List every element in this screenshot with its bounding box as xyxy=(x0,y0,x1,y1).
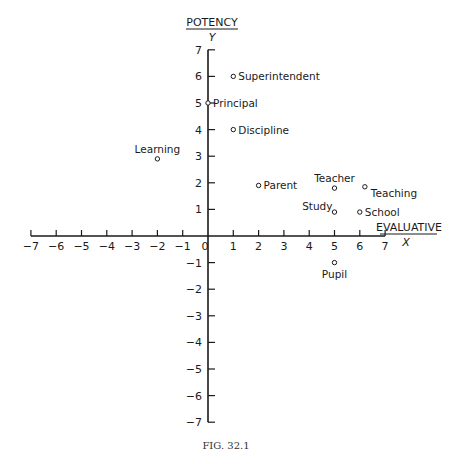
data-point-principal: Principal xyxy=(206,97,258,109)
point-label: Learning xyxy=(135,143,181,155)
y-tick-label: −5 xyxy=(186,363,202,376)
y-axis-variable: Y xyxy=(209,31,217,44)
x-tick-label: 6 xyxy=(356,240,363,253)
y-tick-label: 2 xyxy=(195,177,202,190)
point-marker-icon xyxy=(256,183,260,187)
point-label: School xyxy=(365,206,400,218)
point-marker-icon xyxy=(358,210,362,214)
data-point-study: Study xyxy=(302,200,337,214)
y-axis-title: POTENCY xyxy=(186,16,238,29)
point-marker-icon xyxy=(155,157,159,161)
data-point-pupil: Pupil xyxy=(322,260,347,279)
x-tick-label: −5 xyxy=(73,240,89,253)
x-tick-label: 1 xyxy=(230,240,237,253)
y-tick-label: 7 xyxy=(195,44,202,57)
data-point-superintendent: Superintendent xyxy=(231,70,320,82)
x-tick-label: −3 xyxy=(124,240,140,253)
x-tick-label: −6 xyxy=(48,240,64,253)
semantic-differential-chart: −7−6−5−4−3−2−101234567−7−6−5−4−3−2−11234… xyxy=(0,0,455,464)
point-marker-icon xyxy=(332,210,336,214)
data-point-teacher: Teacher xyxy=(313,172,355,190)
x-tick-label: 4 xyxy=(306,240,313,253)
y-tick-label: −7 xyxy=(186,416,202,429)
x-axis-title: EVALUATIVE xyxy=(376,221,442,234)
point-label: Study xyxy=(302,200,332,212)
y-tick-label: −3 xyxy=(186,310,202,323)
point-marker-icon xyxy=(231,74,235,78)
point-label: Parent xyxy=(264,179,298,191)
point-marker-icon xyxy=(206,101,210,105)
point-marker-icon xyxy=(363,185,367,189)
data-point-learning: Learning xyxy=(135,143,181,161)
y-tick-label: 4 xyxy=(195,124,202,137)
point-label: Teaching xyxy=(370,187,417,199)
x-tick-label: 2 xyxy=(255,240,262,253)
y-tick-label: 1 xyxy=(195,203,202,216)
point-marker-icon xyxy=(332,186,336,190)
point-label: Superintendent xyxy=(238,70,319,82)
point-label: Teacher xyxy=(313,172,355,184)
point-label: Pupil xyxy=(322,268,347,280)
data-point-teaching: Teaching xyxy=(363,185,417,199)
point-marker-icon xyxy=(332,260,336,264)
y-tick-label: −6 xyxy=(186,390,202,403)
data-point-discipline: Discipline xyxy=(231,124,289,136)
y-tick-label: 3 xyxy=(195,150,202,163)
point-label: Principal xyxy=(213,97,258,109)
y-tick-label: −1 xyxy=(186,257,202,270)
x-tick-label: −4 xyxy=(99,240,115,253)
x-tick-label: 7 xyxy=(382,240,389,253)
data-point-parent: Parent xyxy=(256,179,297,191)
data-point-school: School xyxy=(358,206,400,218)
x-tick-label: −1 xyxy=(175,240,191,253)
y-tick-label: 5 xyxy=(195,97,202,110)
point-label: Discipline xyxy=(238,124,289,136)
x-tick-label: −2 xyxy=(149,240,165,253)
x-axis-variable: X xyxy=(401,236,410,249)
figure-caption: FIG. 32.1 xyxy=(202,440,249,451)
x-tick-label: 3 xyxy=(280,240,287,253)
x-tick-label: 5 xyxy=(331,240,338,253)
x-tick-label: 0 xyxy=(202,240,209,253)
y-tick-label: 6 xyxy=(195,70,202,83)
x-tick-label: −7 xyxy=(23,240,39,253)
point-marker-icon xyxy=(231,127,235,131)
y-tick-label: −4 xyxy=(186,336,202,349)
y-tick-label: −2 xyxy=(186,283,202,296)
